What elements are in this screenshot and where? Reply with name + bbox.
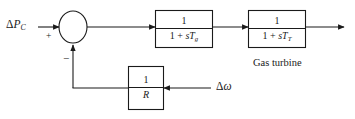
droop-denominator: R bbox=[141, 89, 151, 101]
turbine-fraction-bar bbox=[249, 28, 305, 29]
summing-junction-minus-sign: − bbox=[63, 53, 69, 64]
droop-fraction-bar bbox=[129, 87, 163, 88]
governor-t-subscript: g bbox=[195, 35, 198, 42]
governor-transfer-function: 1 1 + sTg bbox=[156, 12, 212, 46]
droop-transfer-function: 1 R bbox=[129, 68, 163, 106]
summing-junction-plus-sign: + bbox=[46, 32, 51, 42]
turbine-block-caption: Gas turbine bbox=[253, 58, 302, 69]
governor-fraction-bar bbox=[156, 28, 212, 29]
omega-symbol: ω bbox=[223, 80, 231, 92]
turbine-denominator: 1 + sTT bbox=[261, 30, 294, 43]
turbine-numerator: 1 bbox=[273, 15, 282, 27]
p-subscript: C bbox=[20, 23, 25, 32]
governor-numerator: 1 bbox=[180, 15, 189, 27]
governor-denominator-prefix: 1 + bbox=[170, 30, 186, 41]
summing-junction-circle bbox=[59, 11, 87, 43]
block-diagram: ΔPC + − 1 1 + sTg 1 1 + sTT 1 R Gas turb… bbox=[0, 0, 355, 119]
governor-denominator: 1 + sTg bbox=[168, 30, 201, 43]
turbine-denominator-prefix: 1 + bbox=[263, 30, 279, 41]
turbine-transfer-function: 1 1 + sTT bbox=[249, 12, 305, 46]
feedback-input-label-delta-omega: Δω bbox=[216, 81, 232, 93]
input-label-delta-pc: ΔPC bbox=[6, 19, 26, 32]
turbine-t-subscript: T bbox=[288, 35, 292, 42]
droop-numerator: 1 bbox=[142, 74, 151, 86]
